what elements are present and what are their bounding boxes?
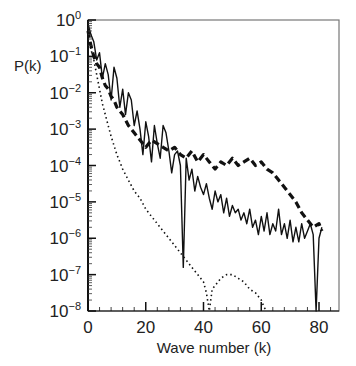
y-tick-label: 10−5: [50, 191, 81, 212]
y-tick-label: 10−3: [50, 118, 81, 139]
y-tick-label: 10−6: [50, 227, 81, 248]
x-tick-label: 40: [194, 318, 213, 337]
plot-border: [88, 20, 339, 311]
y-tick-label: 10−4: [50, 155, 81, 176]
y-tick-label: 100: [56, 9, 81, 30]
series-dashed: [88, 31, 322, 231]
data-series: [88, 24, 322, 311]
series-solid: [88, 24, 322, 311]
y-tick-label: 10−1: [50, 45, 81, 66]
y-tick-label: 10−2: [50, 82, 81, 103]
x-tick-label: 0: [83, 318, 92, 337]
plot-frame: [88, 20, 339, 311]
y-tick-label: 10−8: [50, 300, 81, 321]
x-axis-label: Wave number (k): [157, 339, 271, 356]
series-dotted: [88, 38, 267, 311]
x-tick-label: 80: [310, 318, 329, 337]
chart: 10010−110−210−310−410−510−610−710−802040…: [0, 0, 356, 366]
x-tick-label: 60: [252, 318, 271, 337]
y-axis-label: P(k): [14, 57, 42, 74]
x-tick-label: 20: [136, 318, 155, 337]
y-tick-label: 10−7: [50, 264, 81, 285]
